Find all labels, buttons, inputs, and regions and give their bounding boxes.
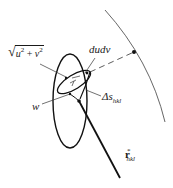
- w-curve: [70, 94, 79, 101]
- leader-delta-s: [86, 90, 101, 96]
- label-dudv: dudv: [89, 44, 110, 55]
- radicand-plus: +: [24, 48, 35, 59]
- sphere-arc: [105, 10, 165, 122]
- delta-s-subscript: hkl: [113, 97, 122, 105]
- label-sqrt-u2-v2: √ u2 + v2: [8, 45, 44, 59]
- delta-s-text: Δs: [102, 90, 113, 102]
- dashed-ray: [90, 52, 134, 72]
- diagram-graphics: [0, 0, 173, 188]
- area-hatch: [70, 76, 80, 86]
- r-subscript: hkl: [126, 155, 135, 163]
- label-w: w: [32, 101, 39, 112]
- small-ellipse: [54, 66, 94, 98]
- leader-sqrt: [40, 64, 68, 78]
- r-vector: [79, 101, 120, 178]
- exponent-v: 2: [39, 46, 43, 54]
- label-r-star-hkl: r*hkl: [125, 148, 135, 163]
- leader-w: [42, 94, 70, 104]
- point-small-ellipse-left: [65, 77, 67, 79]
- large-ellipse: [53, 54, 87, 148]
- r-superscript: *: [127, 147, 131, 155]
- diagram-canvas: √ u2 + v2 dudv w Δshkl r*hkl: [0, 0, 173, 188]
- label-delta-s-hkl: Δshkl: [102, 91, 121, 105]
- point-small-ellipse-right: [86, 72, 89, 75]
- point-w: [69, 93, 71, 95]
